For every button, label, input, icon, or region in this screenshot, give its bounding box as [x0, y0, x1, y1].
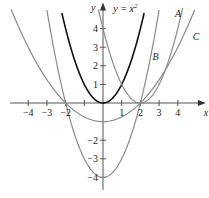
y-tick-label: 2	[93, 60, 98, 71]
x-tick-label: −3	[42, 107, 53, 118]
x-tick-label: 4	[175, 107, 180, 118]
curve-label: C	[193, 31, 200, 42]
x-axis-label: x	[203, 107, 209, 118]
y-axis-arrow-icon	[100, 3, 106, 11]
curve-a	[98, 8, 182, 103]
x-tick-label: −2	[60, 107, 71, 118]
x-tick-label: 2	[138, 107, 143, 118]
y-tick-label: −4	[87, 172, 98, 183]
curve-label: y = x2	[112, 2, 138, 14]
axes	[10, 3, 206, 190]
y-axis-label: y	[90, 2, 96, 13]
x-tick-label: 3	[157, 107, 162, 118]
y-tick-label: 4	[93, 23, 98, 34]
x-tick-label: −4	[23, 107, 34, 118]
y-tick-label: 3	[93, 42, 98, 53]
y-tick-label: 1	[93, 79, 98, 90]
x-tick-label: 1	[119, 107, 124, 118]
x-axis-arrow-icon	[198, 100, 206, 106]
labels: −4−3−212344321−2−3−4xyy = x2ABC	[23, 2, 209, 183]
curve-label: A	[174, 8, 182, 19]
curve-label: B	[153, 51, 159, 62]
function-graph: −4−3−212344321−2−3−4xyy = x2ABC	[0, 0, 209, 198]
y-tick-label: −2	[87, 135, 98, 146]
y-tick-label: −3	[87, 153, 98, 164]
